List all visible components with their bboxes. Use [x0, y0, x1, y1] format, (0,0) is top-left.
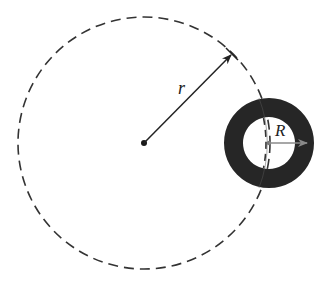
orbit-radius-label: r — [178, 79, 185, 97]
body-radius-label: R — [275, 122, 285, 139]
orbit-diagram — [0, 0, 330, 292]
orbit-radius-arrow — [144, 55, 231, 143]
